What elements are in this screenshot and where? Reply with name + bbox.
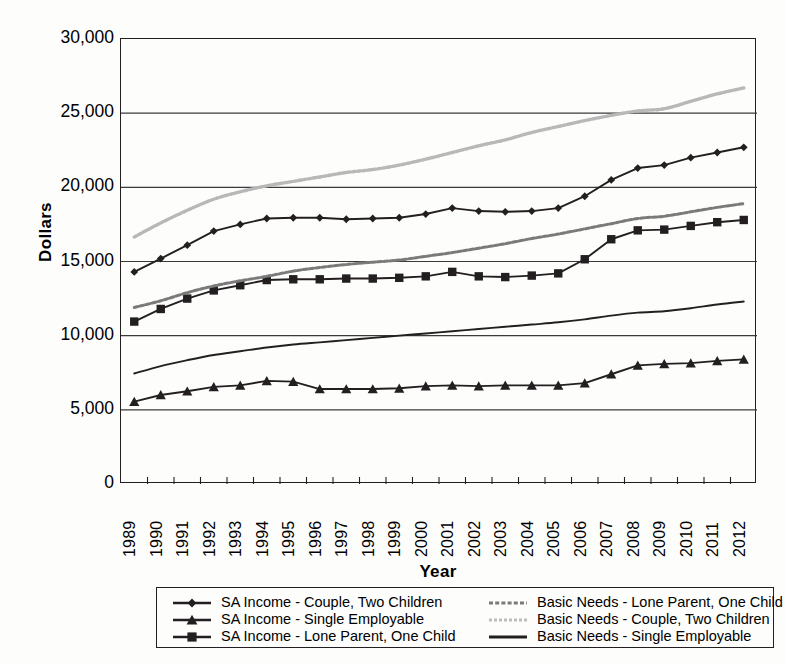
- series-line: [134, 220, 744, 322]
- data-point: [369, 215, 377, 223]
- legend-label: SA Income - Lone Parent, One Child: [221, 628, 456, 645]
- y-tick-label: 25,000: [28, 103, 114, 121]
- data-point: [713, 149, 721, 157]
- legend-marker-icon: [171, 612, 213, 628]
- legend-item[interactable]: Basic Needs - Single Employable: [487, 628, 783, 645]
- data-point: [289, 275, 297, 283]
- legend-swatch-icon: [487, 595, 529, 611]
- chart-figure: Dollars 05,00010,00015,00020,00025,00030…: [0, 0, 785, 664]
- data-point: [740, 216, 748, 224]
- x-tick-label: 2008: [625, 487, 643, 557]
- legend-marker-icon: [487, 595, 529, 611]
- x-tick-label: 2009: [651, 487, 669, 557]
- data-point: [713, 218, 721, 226]
- series-line: [134, 359, 744, 401]
- legend-label: SA Income - Couple, Two Children: [221, 594, 442, 611]
- x-tick-label: 2004: [519, 487, 537, 557]
- legend-item[interactable]: Basic Needs - Couple, Two Children: [487, 611, 783, 628]
- series-5: [134, 302, 744, 374]
- legend-label: Basic Needs - Couple, Two Children: [537, 611, 770, 628]
- x-tick-label: 2000: [413, 487, 431, 557]
- x-tick-label: 1996: [307, 487, 325, 557]
- data-point: [528, 271, 536, 279]
- data-point: [395, 274, 403, 282]
- series-1: [129, 355, 749, 406]
- data-point: [660, 161, 668, 169]
- plot-area: [120, 38, 756, 483]
- x-tick-label: 1999: [386, 487, 404, 557]
- legend-marker-icon: [487, 612, 529, 628]
- data-point: [183, 241, 191, 249]
- legend-column-left: SA Income - Couple, Two ChildrenSA Incom…: [171, 594, 456, 645]
- x-tick-label: 1997: [333, 487, 351, 557]
- data-point: [422, 272, 430, 280]
- chart-legend: SA Income - Couple, Two ChildrenSA Incom…: [156, 587, 774, 648]
- data-point: [528, 207, 536, 215]
- x-tick-label: 1989: [121, 487, 139, 557]
- data-point: [687, 154, 695, 162]
- x-tick-label: 1991: [174, 487, 192, 557]
- data-point: [157, 305, 165, 313]
- y-tick-label: 30,000: [28, 29, 114, 47]
- x-tick-label: 2002: [466, 487, 484, 557]
- data-point: [342, 215, 350, 223]
- data-point: [554, 269, 562, 277]
- legend-label: Basic Needs - Single Employable: [537, 628, 751, 645]
- legend-item[interactable]: SA Income - Single Employable: [171, 611, 456, 628]
- legend-item[interactable]: SA Income - Couple, Two Children: [171, 594, 456, 611]
- data-point: [316, 275, 324, 283]
- legend-swatch-icon: [171, 612, 213, 628]
- data-point: [448, 204, 456, 212]
- x-tick-label: 2010: [678, 487, 696, 557]
- data-point: [634, 164, 642, 172]
- data-point: [395, 214, 403, 222]
- x-tick-label: 2006: [572, 487, 590, 557]
- series-4: [134, 88, 744, 237]
- x-tick-label: 1993: [227, 487, 245, 557]
- legend-label: Basic Needs - Lone Parent, One Child: [537, 594, 783, 611]
- y-tick-label: 15,000: [28, 252, 114, 270]
- series-line: [134, 88, 744, 237]
- legend-swatch-icon: [171, 629, 213, 645]
- x-tick-label: 2012: [731, 487, 749, 557]
- x-tick-label: 1994: [254, 487, 272, 557]
- data-point: [475, 272, 483, 280]
- legend-swatch-icon: [487, 629, 529, 645]
- data-point: [369, 274, 377, 282]
- series-line: [134, 204, 744, 308]
- x-tick-label: 2007: [598, 487, 616, 557]
- series-3: [134, 204, 744, 308]
- legend-marker-icon: [171, 629, 213, 645]
- data-point: [289, 214, 297, 222]
- y-axis-tick-labels: 05,00010,00015,00020,00025,00030,000: [24, 0, 114, 500]
- x-tick-label: 1990: [148, 487, 166, 557]
- x-tick-label: 2005: [545, 487, 563, 557]
- legend-swatch-icon: [487, 612, 529, 628]
- x-tick-label: 1998: [360, 487, 378, 557]
- legend-item[interactable]: Basic Needs - Lone Parent, One Child: [487, 594, 783, 611]
- x-tick-label: 1992: [201, 487, 219, 557]
- data-point: [581, 255, 589, 263]
- series-2: [130, 216, 748, 326]
- data-point: [422, 210, 430, 218]
- x-tick-label: 2011: [704, 487, 722, 557]
- data-point: [740, 143, 748, 151]
- data-point: [130, 268, 138, 276]
- y-tick-label: 20,000: [28, 177, 114, 195]
- x-tick-label: 1995: [280, 487, 298, 557]
- data-point: [634, 226, 642, 234]
- data-point: [687, 222, 695, 230]
- data-point: [316, 214, 324, 222]
- data-point: [475, 207, 483, 215]
- data-point: [448, 268, 456, 276]
- y-tick-label: 5,000: [28, 400, 114, 418]
- legend-swatch-icon: [171, 595, 213, 611]
- data-point: [130, 317, 138, 325]
- x-axis-title: Year: [120, 562, 756, 582]
- legend-label: SA Income - Single Employable: [221, 611, 424, 628]
- data-point: [210, 227, 218, 235]
- legend-item[interactable]: SA Income - Lone Parent, One Child: [171, 628, 456, 645]
- x-tick-label: 2003: [492, 487, 510, 557]
- data-point: [342, 274, 350, 282]
- data-point: [501, 208, 509, 216]
